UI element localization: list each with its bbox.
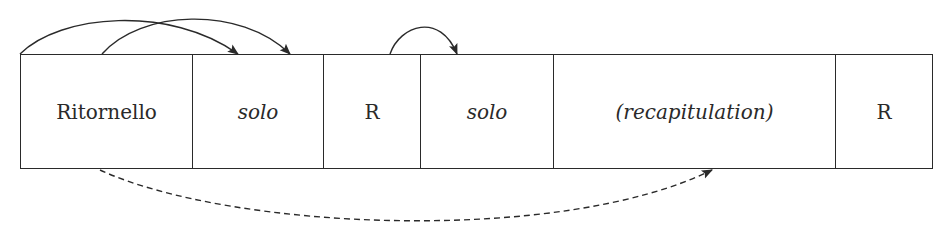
- arrow-ritornello-to-solo-2: [102, 19, 290, 54]
- arrow-r-to-solo: [390, 27, 457, 54]
- ritornello-form-diagram: Ritornello solo R solo (recapitulation) …: [0, 0, 944, 235]
- arrow-ritornello-to-recapitulation: [100, 170, 712, 221]
- arrow-ritornello-to-solo-1: [20, 21, 238, 54]
- arrows-layer: [0, 0, 944, 235]
